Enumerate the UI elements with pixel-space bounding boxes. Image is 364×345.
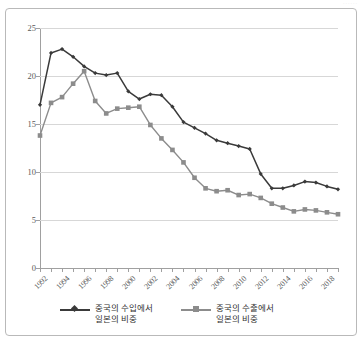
x-tick-mark	[117, 268, 118, 272]
data-point-diamond	[237, 144, 241, 148]
x-tick-mark	[84, 268, 85, 272]
y-tick-mark	[36, 28, 40, 29]
x-tick-mark	[217, 268, 218, 272]
legend-label-exports: 중국의 수출에서 일본의 비중	[216, 303, 274, 326]
x-tick-mark	[316, 268, 317, 272]
data-point-square	[82, 69, 87, 74]
diamond-marker-icon	[71, 305, 78, 312]
y-tick-mark	[36, 220, 40, 221]
x-tick-mark	[195, 268, 196, 272]
data-point-diamond	[38, 103, 42, 107]
x-tick-mark	[261, 268, 262, 272]
x-tick-mark	[294, 268, 295, 272]
data-point-diamond	[336, 187, 340, 191]
x-tick-mark	[172, 268, 173, 272]
x-tick-mark	[128, 268, 129, 272]
x-tick-mark	[150, 268, 151, 272]
square-marker-icon	[193, 306, 199, 312]
data-point-square	[225, 188, 230, 193]
x-tick-mark	[239, 268, 240, 272]
chart-figure: ······ 0510152025 중국의 수입에서 일본의 비중 중국의 수출…	[0, 0, 364, 345]
data-point-square	[269, 201, 274, 206]
x-tick-mark	[228, 268, 229, 272]
data-point-diamond	[325, 184, 329, 188]
x-tick-mark	[139, 268, 140, 272]
data-point-square	[303, 207, 308, 212]
data-point-square	[181, 160, 186, 165]
data-point-square	[281, 205, 286, 210]
x-tick-mark	[327, 268, 328, 272]
legend-label-imports: 중국의 수입에서 일본의 비중	[95, 303, 153, 326]
data-point-square	[49, 101, 54, 106]
data-point-square	[247, 192, 252, 197]
x-tick-mark	[95, 268, 96, 272]
data-point-diamond	[104, 73, 108, 77]
legend-item-imports[interactable]: 중국의 수입에서 일본의 비중	[60, 303, 153, 326]
x-tick-mark	[51, 268, 52, 272]
data-point-square	[258, 196, 263, 201]
x-tick-mark	[161, 268, 162, 272]
legend-swatch-imports	[60, 304, 90, 315]
x-tick-mark	[338, 268, 339, 272]
x-tick-mark	[106, 268, 107, 272]
data-point-square	[214, 189, 219, 194]
data-point-square	[93, 99, 98, 104]
data-point-diamond	[292, 183, 296, 187]
legend-label-imports-line1: 중국의 수입에서	[95, 303, 153, 313]
x-tick-mark	[206, 268, 207, 272]
x-tick-mark	[40, 268, 41, 272]
data-point-square	[148, 123, 153, 128]
legend-label-imports-line2: 일본의 비중	[95, 314, 137, 324]
data-point-square	[159, 136, 164, 141]
x-tick-mark	[62, 268, 63, 272]
data-point-square	[71, 81, 76, 86]
data-point-diamond	[303, 180, 307, 184]
data-point-square	[325, 210, 330, 215]
chart-legend: 중국의 수입에서 일본의 비중 중국의 수출에서 일본의 비중	[60, 303, 310, 335]
x-tick-mark	[250, 268, 251, 272]
x-tick-mark	[183, 268, 184, 272]
data-point-diamond	[226, 141, 230, 145]
data-point-diamond	[314, 180, 318, 184]
x-tick-mark	[283, 268, 284, 272]
x-tick-mark	[305, 268, 306, 272]
data-point-diamond	[281, 186, 285, 190]
data-point-square	[314, 208, 319, 213]
data-point-square	[170, 148, 175, 153]
data-point-square	[336, 212, 341, 217]
data-point-square	[115, 106, 120, 111]
data-point-square	[126, 105, 131, 110]
data-point-square	[192, 175, 197, 180]
data-point-square	[236, 193, 241, 198]
data-point-square	[104, 111, 109, 116]
y-tick-mark	[36, 76, 40, 77]
data-point-square	[38, 133, 43, 138]
y-tick-mark	[36, 172, 40, 173]
legend-label-exports-line1: 중국의 수출에서	[216, 303, 274, 313]
data-point-diamond	[49, 51, 53, 55]
legend-label-exports-line2: 일본의 비중	[216, 314, 258, 324]
data-point-square	[203, 186, 208, 191]
x-tick-mark	[73, 268, 74, 272]
data-point-square	[137, 104, 142, 109]
data-point-square	[60, 95, 65, 100]
data-point-square	[292, 209, 297, 214]
data-point-diamond	[148, 92, 152, 96]
y-tick-mark	[36, 124, 40, 125]
legend-item-exports[interactable]: 중국의 수출에서 일본의 비중	[181, 303, 274, 326]
series-layer	[0, 0, 364, 345]
x-tick-mark	[272, 268, 273, 272]
series-line-exports	[40, 71, 338, 214]
legend-swatch-exports	[181, 304, 211, 315]
